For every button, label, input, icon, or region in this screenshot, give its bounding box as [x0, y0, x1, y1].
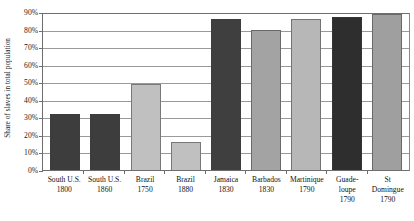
x-axis-category-name: Brazil	[125, 175, 165, 185]
bar-slot	[85, 14, 125, 170]
bar	[50, 114, 80, 170]
y-axis-title-text: Share of slaves in total population	[4, 38, 12, 138]
bar-slot	[166, 14, 206, 170]
y-axis-tick-label: 70%	[24, 44, 38, 52]
x-axis-category-label: St Domingue1790	[368, 174, 408, 221]
x-axis-category-year: 1790	[368, 195, 408, 205]
x-axis-category-year: 1830	[206, 185, 246, 195]
x-axis-category-label: Barbados1830	[246, 174, 286, 221]
bar	[171, 142, 201, 170]
x-axis-category-label: Brazil1750	[125, 174, 165, 221]
bar-series	[43, 14, 409, 170]
bar	[131, 84, 161, 170]
bar-slot	[367, 14, 407, 170]
x-axis-category-year: 1790	[287, 185, 327, 195]
bar-chart: Share of slaves in total population 90%8…	[0, 0, 414, 221]
y-axis-tick-label: 30%	[24, 114, 38, 122]
y-axis-tick-label: 50%	[24, 79, 38, 87]
x-axis-category-year: 1860	[84, 185, 124, 195]
y-axis-tick-label: 60%	[24, 62, 38, 70]
x-axis-category-name: Barbados	[246, 175, 286, 185]
x-axis-category-name: St Domingue	[368, 175, 408, 195]
y-axis-tick-label: 40%	[24, 97, 38, 105]
x-axis-category-label: Jamaica1830	[206, 174, 246, 221]
x-axis-category-year: 1880	[165, 185, 205, 195]
y-axis-tick-label: 90%	[24, 9, 38, 17]
bar-slot	[286, 14, 326, 170]
bar-slot	[327, 14, 367, 170]
x-axis-category-labels: South U.S.1800South U.S.1860Brazil1750Br…	[42, 174, 410, 221]
x-axis-category-name: Guade- loupe	[327, 175, 367, 195]
y-axis-tick-label: 80%	[24, 27, 38, 35]
x-axis-category-year: 1800	[44, 185, 84, 195]
x-axis-category-label: Guade- loupe1790	[327, 174, 367, 221]
bar	[211, 19, 241, 170]
x-axis-category-year: 1830	[246, 185, 286, 195]
bar-slot	[125, 14, 165, 170]
x-axis-category-label: Brazil1880	[165, 174, 205, 221]
x-axis-category-name: Brazil	[165, 175, 205, 185]
x-axis-category-year: 1750	[125, 185, 165, 195]
x-axis-category-name: South U.S.	[44, 175, 84, 185]
y-axis-tick-label: 10%	[24, 149, 38, 157]
x-axis-category-year: 1790	[327, 195, 367, 205]
x-axis-category-label: Martinique1790	[287, 174, 327, 221]
x-axis-category-name: Jamaica	[206, 175, 246, 185]
x-axis-category-name: Martinique	[287, 175, 327, 185]
bar	[332, 17, 362, 170]
y-axis-tick-label: 0%	[28, 167, 38, 175]
bar-slot	[246, 14, 286, 170]
x-axis-category-label: South U.S.1800	[44, 174, 84, 221]
bar	[291, 19, 321, 170]
bar-slot	[45, 14, 85, 170]
bar	[372, 14, 402, 170]
bar	[251, 30, 281, 170]
plot-area	[42, 13, 410, 171]
bar	[90, 114, 120, 170]
y-axis-tick-label: 20%	[24, 132, 38, 140]
x-axis-category-label: South U.S.1860	[84, 174, 124, 221]
y-axis-tick-labels: 90%80%70%60%50%40%30%20%10%0%	[14, 0, 42, 180]
x-axis-category-name: South U.S.	[84, 175, 124, 185]
bar-slot	[206, 14, 246, 170]
